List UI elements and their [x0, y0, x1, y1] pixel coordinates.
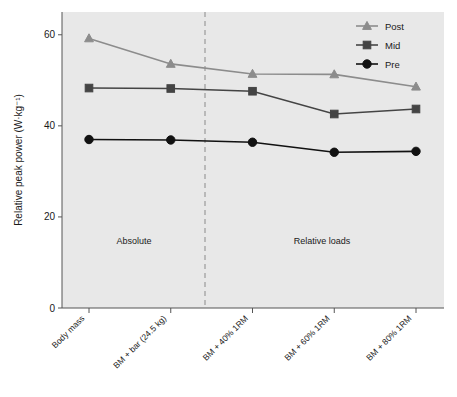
data-point-marker: [249, 87, 257, 95]
plot-background: [62, 12, 444, 308]
data-point-marker: [167, 136, 175, 144]
x-tick-label: BM + 60% 1RM: [282, 313, 331, 362]
y-tick-label: 60: [44, 29, 56, 40]
y-axis-title: Relative peak power (W·kg⁻¹): [13, 94, 24, 226]
data-point-marker: [330, 110, 338, 118]
legend-marker-icon: [363, 60, 371, 68]
line-chart: 0204060 Body massBM + bar (24.5 kg)BM + …: [0, 0, 457, 397]
data-point-marker: [85, 135, 93, 143]
x-tick-label: Body mass: [50, 313, 87, 350]
legend-label: Mid: [385, 40, 400, 51]
y-tick-labels: 0204060: [44, 29, 56, 313]
legend-marker-icon: [363, 41, 371, 49]
x-tick-label: BM + 40% 1RM: [201, 313, 250, 362]
data-point-marker: [412, 105, 420, 113]
data-point-marker: [412, 147, 420, 155]
data-point-marker: [248, 138, 256, 146]
x-tick-marks: [89, 308, 416, 313]
annotation-absolute: Absolute: [116, 236, 151, 246]
chart-figure: 0204060 Body massBM + bar (24.5 kg)BM + …: [0, 0, 457, 397]
y-tick-label: 20: [44, 211, 56, 222]
y-tick-label: 40: [44, 120, 56, 131]
data-point-marker: [85, 84, 93, 92]
x-tick-label: BM + 80% 1RM: [364, 313, 413, 362]
y-tick-marks: [58, 35, 62, 308]
data-point-marker: [167, 85, 175, 93]
x-tick-label: BM + bar (24.5 kg): [111, 313, 168, 370]
legend-label: Pre: [385, 59, 400, 70]
x-tick-labels: Body massBM + bar (24.5 kg)BM + 40% 1RMB…: [50, 313, 414, 370]
y-tick-label: 0: [49, 303, 55, 314]
annotation-relative-loads: Relative loads: [294, 236, 351, 246]
data-point-marker: [330, 148, 338, 156]
legend-label: Post: [385, 21, 404, 32]
